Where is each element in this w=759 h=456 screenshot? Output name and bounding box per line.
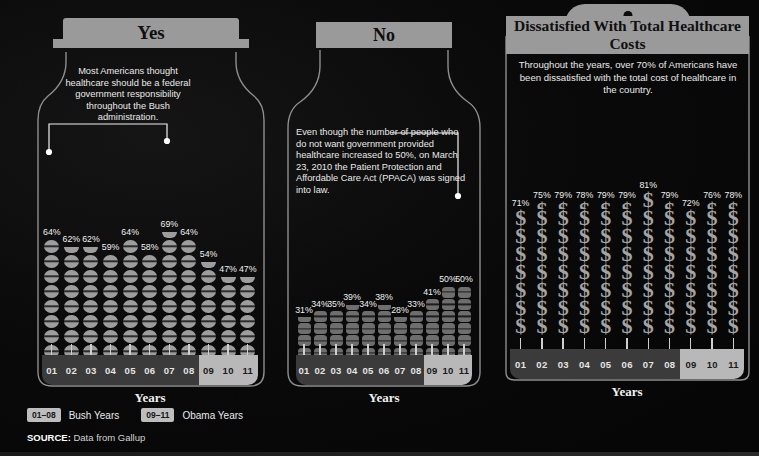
axis-tick <box>208 344 209 355</box>
bar-value-label: 69% <box>161 219 179 229</box>
axis-tick <box>303 344 304 355</box>
axis-year-05[interactable]: 05 <box>595 349 616 379</box>
axis-year-02[interactable]: 02 <box>62 355 82 385</box>
yes-header: Yes <box>63 18 239 48</box>
pill-icon-partial <box>64 247 79 254</box>
axis-year-06[interactable]: 06 <box>376 355 392 385</box>
axis-year-07[interactable]: 07 <box>638 349 659 379</box>
axis-year-04[interactable]: 04 <box>101 355 121 385</box>
bar-value-label: 39% <box>343 292 361 302</box>
axis-year-04[interactable]: 04 <box>344 355 360 385</box>
bar-value-label: 47% <box>219 264 237 274</box>
axis-tick <box>335 344 336 355</box>
no-callout-text: Even though the number of people who do … <box>296 127 466 197</box>
bar-value-label: 62% <box>82 234 100 244</box>
axis-year-01[interactable]: 01 <box>296 355 312 385</box>
pill-icon <box>240 300 255 314</box>
axis-tick <box>110 344 111 355</box>
cost-columns: 71%$$$$$$$75%$$$$$$$$79%$$$$$$$$78%$$$$$… <box>510 110 744 335</box>
pill-icon <box>64 300 79 314</box>
pill-icon <box>103 270 118 284</box>
icon-stack <box>181 238 196 358</box>
tick-holder <box>360 344 376 355</box>
axis-year-10[interactable]: 10 <box>218 355 238 385</box>
bar-value-label: 64% <box>121 227 139 237</box>
tablet-icon <box>362 323 375 334</box>
pill-icon <box>201 270 216 284</box>
tablet-icon <box>458 287 471 298</box>
axis-year-01[interactable]: 01 <box>42 355 62 385</box>
pill-icon <box>181 285 196 299</box>
axis-year-01[interactable]: 01 <box>510 349 531 379</box>
axis-year-02[interactable]: 02 <box>312 355 328 385</box>
axis-year-10[interactable]: 10 <box>702 349 723 379</box>
pill-icon <box>240 315 255 329</box>
axis-year-07[interactable]: 07 <box>392 355 408 385</box>
axis-year-10[interactable]: 10 <box>440 355 456 385</box>
axis-year-06[interactable]: 06 <box>140 355 160 385</box>
no-tick-marks <box>296 344 472 355</box>
tablet-icon <box>458 323 471 334</box>
no-header: No <box>316 22 452 48</box>
tablet-icon <box>426 311 439 322</box>
axis-tick <box>319 344 320 355</box>
pill-icon <box>83 255 98 269</box>
axis-year-07[interactable]: 07 <box>160 355 180 385</box>
tablet-icon-partial <box>346 305 359 310</box>
axis-year-05[interactable]: 05 <box>360 355 376 385</box>
pill-icon <box>64 315 79 329</box>
icon-stack: $$$$$$$$ <box>728 201 739 335</box>
pill-icon <box>83 270 98 284</box>
axis-tick <box>669 338 670 349</box>
pill-icon <box>162 285 177 299</box>
axis-year-04[interactable]: 04 <box>574 349 595 379</box>
axis-tick <box>711 338 712 349</box>
icon-stack <box>44 238 59 358</box>
axis-year-09[interactable]: 09 <box>680 349 701 379</box>
bar-column: 79%$$$$$$$$ <box>553 190 574 335</box>
tick-holder <box>616 338 637 349</box>
pill-icon <box>83 315 98 329</box>
tick-holder <box>595 338 616 349</box>
pill-icon <box>181 300 196 314</box>
axis-year-11[interactable]: 11 <box>723 349 744 379</box>
axis-year-02[interactable]: 02 <box>531 349 552 379</box>
yes-callout-text: Most Americans thought healthcare should… <box>58 66 198 124</box>
dollar-icon: $ <box>579 316 590 335</box>
pill-icon <box>142 270 157 284</box>
pill-icon <box>221 315 236 329</box>
axis-tick <box>584 338 585 349</box>
axis-year-08[interactable]: 08 <box>179 355 199 385</box>
legend-chip-bush: 01–08 <box>27 408 61 422</box>
tick-holder <box>376 344 392 355</box>
tablet-icon <box>298 323 311 334</box>
icon-stack: $$$$$$$$ <box>707 201 718 335</box>
axis-band-bush: 0102030405060708 <box>510 349 680 379</box>
axis-year-08[interactable]: 08 <box>659 349 680 379</box>
axis-year-11[interactable]: 11 <box>238 355 258 385</box>
pill-icon <box>181 255 196 269</box>
axis-year-03[interactable]: 03 <box>81 355 101 385</box>
pill-icon <box>162 255 177 269</box>
axis-year-09[interactable]: 09 <box>199 355 219 385</box>
dollar-icon: $ <box>685 316 696 335</box>
axis-band-bush: 0102030405060708 <box>42 355 199 385</box>
axis-year-06[interactable]: 06 <box>616 349 637 379</box>
axis-year-03[interactable]: 03 <box>328 355 344 385</box>
axis-tick <box>351 344 352 355</box>
dollar-icon: $ <box>536 316 547 335</box>
pill-icon <box>201 285 216 299</box>
pill-icon <box>83 285 98 299</box>
bar-value-label: 78% <box>724 190 742 200</box>
axis-year-05[interactable]: 05 <box>120 355 140 385</box>
axis-year-09[interactable]: 09 <box>424 355 440 385</box>
axis-year-03[interactable]: 03 <box>553 349 574 379</box>
tick-holder <box>328 344 344 355</box>
icon-stack <box>103 253 118 358</box>
axis-year-11[interactable]: 11 <box>456 355 472 385</box>
tick-holder <box>424 344 440 355</box>
axis-tick <box>149 344 150 355</box>
bar-value-label: 64% <box>43 227 61 237</box>
axis-year-08[interactable]: 08 <box>408 355 424 385</box>
bar-value-label: 35% <box>327 299 345 309</box>
